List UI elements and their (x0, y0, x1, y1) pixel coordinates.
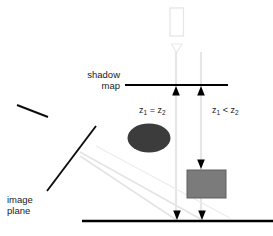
depth-equal-sub1: 1 (144, 109, 148, 116)
depth-less-sub2: 2 (235, 109, 239, 116)
shadow-map-label: shadow map (48, 70, 120, 91)
view-direction-tick (17, 105, 48, 117)
view-ray-upper (80, 152, 204, 221)
depth-equal-z1: z (139, 105, 144, 115)
arrow-up-left-icon (172, 86, 180, 96)
depth-less-operator: < (220, 105, 230, 115)
receiver-rectangle (187, 170, 226, 198)
arrow-up-right-icon (197, 86, 205, 96)
depth-less-z1: z (212, 105, 217, 115)
depth-less-sub1: 1 (217, 109, 221, 116)
diagram-canvas: shadow map image plane z1 = z2 z1 < z2 (0, 0, 273, 236)
light-source-icon (170, 8, 184, 53)
depth-equal-label: z1 = z2 (139, 105, 166, 115)
depth-less-label: z1 < z2 (212, 105, 239, 115)
light-source-cone (172, 44, 183, 53)
view-ray-lower (80, 156, 178, 221)
depth-equal-sub2: 2 (162, 109, 166, 116)
depth-equal-operator: = (147, 105, 157, 115)
image-plane-label: image plane (7, 195, 77, 216)
occluder-ellipse (128, 124, 171, 153)
arrow-down-receiver-icon (197, 160, 205, 170)
image-plane-line (47, 126, 96, 191)
light-source-body (170, 8, 184, 36)
